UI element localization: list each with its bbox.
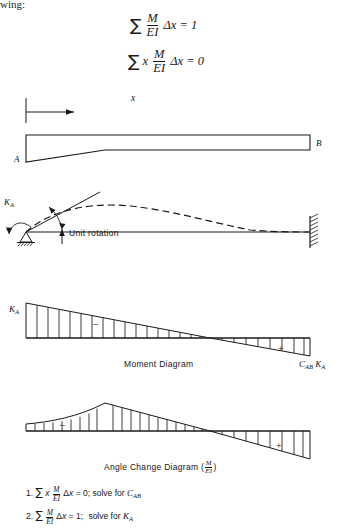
step-2-unknown: KA [123,511,133,521]
fraction-denominator: EI [147,25,159,39]
angle-change-positive-sign: + [276,440,282,451]
moment-negative-sign: – [93,318,98,329]
angle-change-diagram-caption: Angle Change Diagram (MEI) [104,460,217,475]
step-2-number: 2. [26,511,33,521]
step-2-fraction: MEI [46,509,53,525]
step-2-summation: ∑ [35,509,42,522]
moment-left-label-ka: KA [9,304,19,315]
step-1-equals: = 0; [76,488,90,498]
step-1-prefix: x [45,488,49,498]
equation-2-prefix: x [143,54,149,68]
step-1-variable: x [69,488,73,498]
tapered-beam-svg [0,90,339,170]
step-1-solve-text: solve for [92,488,124,498]
figure-root: wing: ∑ M EI Δx = 1 ∑ x M EI Δx = 0 x A … [0,0,339,529]
beam-label-b: B [316,138,322,148]
moment-negative-lobe [26,303,210,338]
step-1-number: 1. [26,488,33,498]
fraction-numerator: M [153,48,165,61]
step-2-solve-text: solve for [88,511,120,521]
pin-support-triangle [20,232,32,242]
summation-symbol: ∑ [128,51,139,71]
equation-2-tail: Δx = 0 [170,54,204,68]
moment-diagram-svg [0,295,339,365]
angle-change-caption-close: ) [213,462,216,472]
step-2-equals: = 1; [69,511,83,521]
moment-diagram-caption: Moment Diagram [124,359,193,369]
cut-off-heading-text: wing: [0,0,25,10]
equation-2: ∑ x M EI Δx = 0 [128,48,204,75]
fraction-numerator: M [147,12,159,25]
m-over-ei-fraction: M EI [147,12,159,39]
summation-symbol: ∑ [130,15,141,35]
moment-positive-lobe [210,338,310,356]
step-2-variable: x [62,511,66,521]
fixed-support-hatching [310,214,318,246]
ka-arrow-head [6,228,13,235]
moment-right-label-cab-ka: CAB KA [299,359,325,370]
angle-change-caption-text: Angle Change Diagram ( [104,462,204,472]
x-axis-label: x [131,93,135,103]
m-over-ei-fraction: M EI [153,48,165,75]
step-1-summation: ∑ [35,486,42,499]
beam-outline [26,135,310,162]
step-1-unknown: CAB [127,488,141,498]
step-1: 1. ∑ x MEI Δx = 0; solve for CAB [26,486,141,502]
angle-change-negative-lobe [26,403,210,431]
beam-label-a: A [14,154,20,164]
rotation-arrow-head-lower [59,223,66,229]
step-2: 2. ∑ MEI Δx = 1; solve for KA [26,509,133,525]
x-arrow-head [66,109,74,114]
equation-1: ∑ M EI Δx = 1 [130,12,197,39]
step-1-fraction: MEI [53,486,60,502]
equation-1-tail: Δx = 1 [164,18,198,32]
angle-change-negative-sign: – [60,419,65,430]
unit-rotation-label: Unit rotation [69,228,119,238]
deflected-shape-svg [0,180,339,260]
m-over-ei-caption-fraction: MEI [205,460,212,475]
pin-support-hatching [18,243,33,247]
fraction-denominator: EI [153,61,165,75]
angle-change-positive-lobe [210,431,310,459]
ka-label-deflection: KA [4,197,14,208]
moment-positive-sign: + [278,343,284,354]
